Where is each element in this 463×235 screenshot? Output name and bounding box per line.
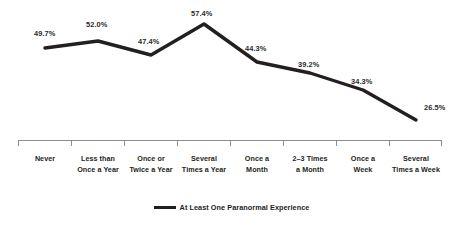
data-label-3: 57.4%: [191, 9, 212, 18]
x-axis-label-line-1: Once a: [245, 154, 269, 165]
x-axis-label-several-times-a-week: Several Times a Week: [392, 154, 440, 175]
x-axis: [18, 141, 442, 147]
data-label-5: 39.2%: [298, 60, 319, 69]
x-axis-label-line-1: Once a: [351, 154, 375, 165]
x-axis-label-never: Never: [35, 154, 55, 165]
x-axis-label-line-2: a Month: [292, 165, 327, 176]
x-axis-label-line-2: Times a Year: [182, 165, 226, 176]
data-label-4: 44.3%: [245, 44, 266, 53]
x-axis-label-line-1: Several: [392, 154, 440, 165]
legend-label: At Least One Paranormal Experience: [180, 203, 310, 212]
data-label-2: 47.4%: [138, 37, 159, 46]
x-axis-label-line-1: Never: [35, 154, 55, 165]
chart-plot-area: [0, 0, 463, 235]
chart-legend: At Least One Paranormal Experience: [0, 203, 463, 212]
data-label-0: 49.7%: [34, 29, 55, 38]
x-axis-label-line-1: Several: [182, 154, 226, 165]
x-axis-label-line-2: Twice a Year: [129, 165, 172, 176]
x-axis-label-line-2: Week: [351, 165, 375, 176]
x-axis-label-line-1: 2–3 Times: [292, 154, 327, 165]
x-axis-label-once-a-month: Once a Month: [245, 154, 269, 175]
x-axis-label-less-than-once-a-year: Less than Once a Year: [77, 154, 119, 175]
x-axis-label-line-2: Once a Year: [77, 165, 119, 176]
data-label-1: 52.0%: [86, 20, 107, 29]
x-axis-label-line-1: Once or: [129, 154, 172, 165]
data-label-6: 34.3%: [351, 77, 372, 86]
x-axis-label-once-or-twice-a-year: Once or Twice a Year: [129, 154, 172, 175]
series-line-at-least-one-paranormal-experience: [45, 24, 416, 120]
x-axis-label-line-2: Times a Week: [392, 165, 440, 176]
data-label-7: 26.5%: [424, 103, 445, 112]
x-axis-label-several-times-a-year: Several Times a Year: [182, 154, 226, 175]
chart-container: 49.7% 52.0% 47.4% 57.4% 44.3% 39.2% 34.3…: [0, 0, 463, 235]
legend-line-swatch-icon: [154, 206, 176, 209]
x-axis-label-2-3-times-a-month: 2–3 Times a Month: [292, 154, 327, 175]
x-axis-label-line-1: Less than: [77, 154, 119, 165]
x-axis-label-line-2: Month: [245, 165, 269, 176]
x-axis-label-once-a-week: Once a Week: [351, 154, 375, 175]
